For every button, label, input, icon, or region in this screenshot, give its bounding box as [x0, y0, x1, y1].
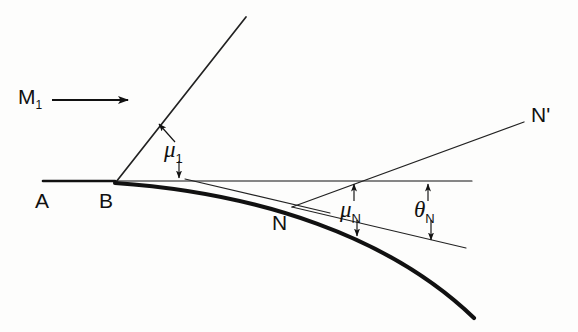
point-b-label: B [99, 190, 113, 211]
point-n-prime-label: N' [531, 104, 550, 125]
mu-1-subscript: 1 [176, 151, 183, 166]
mu-n-subscript: N [352, 211, 361, 226]
prime-mark: ' [546, 103, 550, 126]
theta-n-label: θN [414, 198, 435, 225]
mu-n-symbol: μ [340, 197, 352, 222]
mu-symbol: μ [164, 137, 176, 162]
n-prime-letter: N [531, 103, 546, 126]
wall-tangent-at-n [292, 207, 466, 248]
mach-line-n-to-nprime [292, 122, 524, 207]
point-a-label: A [35, 190, 49, 211]
mu-n-label: μN [340, 198, 361, 225]
mu-1-label: μ1 [164, 138, 183, 165]
theta-n-subscript: N [425, 211, 434, 226]
mach-wave-diagram: M1 A B N N' μ1 μN θN [0, 0, 578, 332]
mach-symbol: M [18, 85, 36, 108]
freestream-mach-label: M1 [18, 86, 42, 111]
diagram-canvas [0, 0, 578, 332]
theta-symbol: θ [414, 197, 425, 222]
point-n-label: N [272, 212, 287, 233]
mach-subscript: 1 [36, 98, 43, 112]
